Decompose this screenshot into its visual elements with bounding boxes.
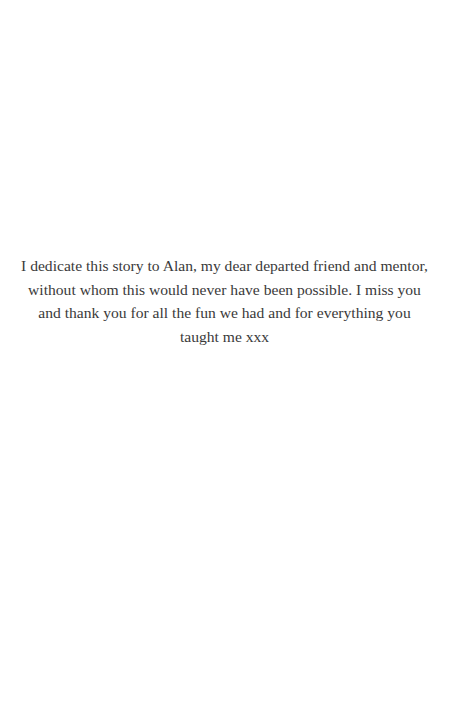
dedication-line: and thank you for all the fun we had and… [38, 304, 410, 321]
dedication-line: I dedicate this story to Alan, my dear d… [21, 257, 428, 274]
dedication-line: without whom this would never have been … [28, 281, 421, 298]
book-page: I dedicate this story to Alan, my dear d… [0, 0, 449, 725]
dedication-line: taught me xxx [180, 328, 269, 345]
dedication-text: I dedicate this story to Alan, my dear d… [20, 254, 429, 348]
